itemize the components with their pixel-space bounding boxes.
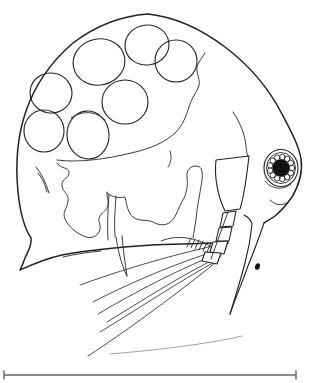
egg xyxy=(102,80,148,124)
daphnia-illustration xyxy=(0,0,315,383)
claw-edge xyxy=(116,237,127,276)
gut-line xyxy=(168,151,171,167)
rostrum xyxy=(230,215,264,314)
carapace-fold xyxy=(36,167,49,193)
antenna-base xyxy=(215,156,249,211)
eye-pupil xyxy=(273,160,290,177)
brood-eggs xyxy=(24,22,197,161)
swimming-seta-faint xyxy=(110,336,242,354)
brood-chamber-boundary xyxy=(57,53,205,161)
abdominal-processes xyxy=(57,163,108,238)
antenna-segment xyxy=(220,211,236,227)
rostrum-seta-spot xyxy=(254,263,261,271)
swimming-seta xyxy=(107,256,221,322)
swimming-seta xyxy=(88,263,215,356)
egg xyxy=(24,110,64,152)
head-inner-line xyxy=(233,112,248,157)
egg xyxy=(122,22,171,68)
egg-inner-contour xyxy=(71,113,105,120)
filter-comb-arc xyxy=(161,237,212,247)
egg xyxy=(155,40,197,82)
scale-bar xyxy=(4,371,296,380)
limb-line xyxy=(115,196,116,237)
compound-eye xyxy=(264,150,298,189)
comb-tick xyxy=(195,240,199,249)
swimming-seta xyxy=(100,260,218,332)
egg xyxy=(69,34,129,90)
thorax-boundary xyxy=(107,166,202,238)
figure-daphnia xyxy=(0,0,315,383)
thoracic-limbs xyxy=(108,194,116,240)
mouth-line xyxy=(270,200,286,205)
comb-tick xyxy=(187,238,191,247)
